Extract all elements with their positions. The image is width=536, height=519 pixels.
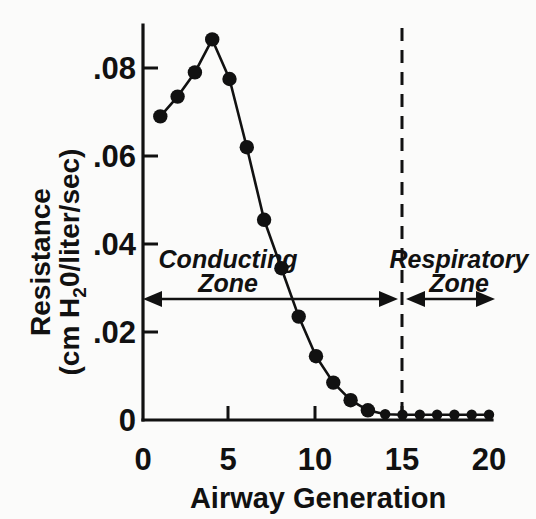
y-tick-label-08: .08 <box>93 51 136 86</box>
data-point <box>484 410 494 420</box>
conducting-zone-label-line2: Zone <box>197 269 258 297</box>
data-point <box>153 109 167 123</box>
respiratory-zone-label-line2: Zone <box>428 269 489 297</box>
data-point <box>467 410 477 420</box>
resistance-vs-airway-generation-chart: .08 .06 .04 .02 0 0 5 10 15 20 Airway Ge… <box>0 0 536 519</box>
y-axis-title-line2: (cm H20/liter/sec) <box>54 149 90 376</box>
x-tick-label-5: 5 <box>219 442 236 477</box>
data-point <box>170 89 184 103</box>
data-point <box>380 409 390 419</box>
resistance-curve <box>160 39 489 414</box>
data-point <box>257 213 271 227</box>
conducting-zone-arrow <box>143 291 398 307</box>
y-tick-label-06: .06 <box>93 139 136 174</box>
respiratory-zone-arrow-head-left <box>406 291 425 307</box>
figure-canvas: .08 .06 .04 .02 0 0 5 10 15 20 Airway Ge… <box>0 0 536 519</box>
x-tick-label-0: 0 <box>134 442 151 477</box>
x-tick-label-10: 10 <box>298 442 332 477</box>
data-point <box>397 410 407 420</box>
y-axis-title-prefix: (cm H <box>54 298 85 376</box>
x-tick-label-15: 15 <box>385 442 419 477</box>
y-tick-label-02: .02 <box>93 315 136 350</box>
y-tick-label-0: 0 <box>119 403 136 438</box>
data-point <box>343 393 357 407</box>
data-point <box>432 410 442 420</box>
x-axis-title: Airway Generation <box>190 482 446 514</box>
data-point <box>361 403 375 417</box>
data-point <box>309 349 323 363</box>
data-point <box>188 65 202 79</box>
data-point <box>222 72 236 86</box>
y-axis-title-line1: Resistance <box>25 188 56 336</box>
data-point <box>274 261 288 275</box>
y-axis-ticks <box>143 68 158 332</box>
data-point <box>205 32 219 46</box>
data-point <box>292 309 306 323</box>
y-axis-title-subscript: 2 <box>69 287 90 298</box>
y-axis-title-suffix: 0/liter/sec) <box>54 149 85 288</box>
resistance-data-points <box>153 32 494 420</box>
conducting-zone-arrow-head-left <box>143 291 162 307</box>
data-point <box>240 140 254 154</box>
y-tick-label-04: .04 <box>93 227 137 262</box>
data-point <box>449 410 459 420</box>
data-point <box>326 375 340 389</box>
x-tick-label-20: 20 <box>472 442 506 477</box>
conducting-zone-arrow-head-right <box>379 291 398 307</box>
data-point <box>415 410 425 420</box>
